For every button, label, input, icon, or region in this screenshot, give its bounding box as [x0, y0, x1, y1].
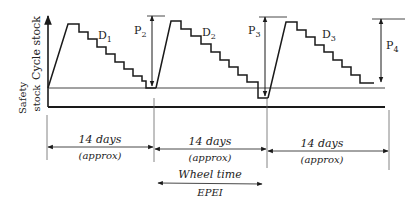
d3-label: D3 — [322, 28, 336, 43]
wheel-time-arrow — [158, 183, 262, 184]
period-1-duration: 14 days — [79, 133, 122, 146]
d2-label: D2 — [202, 26, 216, 41]
period-2-note: (approx) — [188, 152, 231, 163]
period-1-note: (approx) — [78, 150, 121, 161]
p3-label: P3 — [248, 24, 261, 39]
wheel-time-label: Wheel time — [178, 168, 242, 181]
p2-label: P2 — [134, 24, 147, 39]
safety-stock-label-line2: stock — [31, 84, 42, 112]
cycle-3-inventory — [268, 22, 374, 98]
d1-label: D1 — [98, 29, 112, 44]
inventory-cycle-diagram: D1 D2 D3 P2 P3 P4 Cycle stock Safety sto… — [0, 0, 419, 209]
safety-stock-label-line1: Safety — [17, 82, 28, 114]
period-2-duration: 14 days — [189, 135, 232, 148]
period-3-duration: 14 days — [301, 137, 344, 150]
p4-label: P4 — [386, 39, 399, 54]
cycle-stock-label: Cycle stock — [30, 16, 43, 80]
epei-label: EPEI — [196, 187, 223, 198]
period-3-note: (approx) — [300, 154, 343, 165]
